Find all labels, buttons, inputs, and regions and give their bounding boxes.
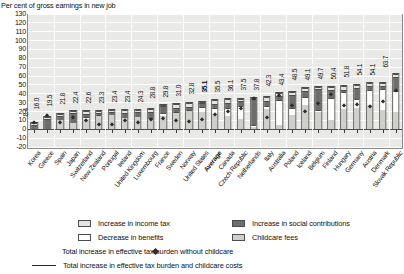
stacked-bar[interactable] <box>302 87 310 130</box>
bar-group[interactable]: 23.3 <box>105 15 118 148</box>
bar-group[interactable]: 24.3 <box>144 15 157 148</box>
y-axis-tick: 40 <box>2 90 26 97</box>
bar-group[interactable]: 63.7 <box>389 15 402 148</box>
stacked-bar[interactable] <box>392 73 400 129</box>
bar-group[interactable]: 43.4 <box>286 15 299 148</box>
y-axis-tick: 120 <box>2 19 26 26</box>
legend-label: Total increase in effective tax burden w… <box>62 247 233 256</box>
x-axis-tick <box>163 130 164 133</box>
bar-segment-social <box>354 88 360 99</box>
bar-group[interactable]: 28.8 <box>157 15 170 148</box>
x-axis-category-labels: KoreaGreeceSpainJapanSwitzerlandNew Zeal… <box>27 150 403 212</box>
x-axis-tick <box>86 130 87 133</box>
legend-swatch-social-contributions-icon <box>232 220 245 227</box>
stacked-bar[interactable] <box>289 91 297 129</box>
bar-group[interactable]: 51.8 <box>350 15 363 148</box>
stacked-bar[interactable] <box>69 110 77 129</box>
bar-segment-benefits <box>303 97 309 105</box>
legend-label: Increase in social contributions <box>252 219 350 228</box>
bar-segment-childcare <box>354 108 360 128</box>
y-axis-tick: 90 <box>2 45 26 52</box>
y-axis-tick: 110 <box>2 28 26 35</box>
legend-swatch-childcare-icon <box>232 234 245 241</box>
bar-value-label: 37.8 <box>254 78 261 90</box>
x-axis-tick <box>112 130 113 133</box>
y-axis-tick: 70 <box>2 63 26 70</box>
bar-segment-childcare <box>251 127 257 129</box>
bar-group[interactable]: 48.5 <box>299 15 312 148</box>
bar-segment-childcare <box>393 112 399 129</box>
x-axis-tick <box>138 130 139 133</box>
bar-value-label: 22.4 <box>74 92 81 104</box>
bar-segment-social <box>251 99 257 125</box>
legend-label: Increase in income tax <box>98 219 170 228</box>
y-axis-tick: -10 <box>2 134 26 141</box>
bar-value-label: 36.1 <box>228 80 235 92</box>
bar-group[interactable]: 29.8 <box>170 15 183 148</box>
x-axis-tick <box>370 130 371 133</box>
bar-value-label: 50.4 <box>331 67 338 79</box>
legend-item-total-with-childcare: Total increase in effective tax burden a… <box>32 261 242 270</box>
bar-group[interactable]: 23.4 <box>131 15 144 148</box>
x-axis-tick <box>254 130 255 133</box>
bar-value-label: 28.8 <box>151 86 158 98</box>
y-axis-tick: 100 <box>2 37 26 44</box>
stacked-bar[interactable] <box>237 98 245 130</box>
bar-group[interactable]: 8.4 <box>28 15 41 148</box>
bar-value-label: 29.8 <box>164 86 171 98</box>
bar-value-label: 35.5 <box>215 80 222 92</box>
bar-group[interactable]: 23.4 <box>118 15 131 148</box>
x-axis-tick <box>396 130 397 133</box>
bar-segment-benefits <box>328 98 334 121</box>
bar-segment-social <box>161 106 167 113</box>
bar-segment-childcare <box>225 116 231 128</box>
bar-value-label: 21.8 <box>61 93 68 105</box>
x-axis-tick <box>189 130 190 133</box>
bar-value-label: 49.7 <box>319 68 326 80</box>
stacked-bar[interactable] <box>314 86 322 130</box>
bar-value-label: 23.3 <box>99 91 106 103</box>
stacked-bar[interactable] <box>173 103 181 129</box>
bar-group[interactable]: 21.8 <box>67 15 80 148</box>
bar-group[interactable]: 54.1 <box>363 15 376 148</box>
bar-group[interactable]: 22.4 <box>80 15 93 148</box>
stacked-bar[interactable] <box>263 96 271 130</box>
stacked-bar[interactable] <box>379 82 387 130</box>
bar-value-label: 32.8 <box>190 83 197 95</box>
bar-group[interactable]: 22.6 <box>92 15 105 148</box>
bar-segment-childcare <box>238 119 244 129</box>
bar-segment-social <box>315 89 321 110</box>
bar-value-label: 48.5 <box>293 69 300 81</box>
x-axis-tick <box>47 130 48 133</box>
x-axis-tick <box>215 130 216 133</box>
stacked-bar[interactable] <box>185 102 193 129</box>
bar-group[interactable]: 16.0 <box>41 15 54 148</box>
stacked-bar[interactable] <box>250 97 258 130</box>
stacked-bar[interactable] <box>276 92 284 130</box>
bar-value-label: 54.1 <box>370 64 377 76</box>
x-axis-tick <box>34 130 35 133</box>
y-axis-tick: 0 <box>2 125 26 132</box>
legend-item-decrease-benefits: Decrease in benefits <box>78 233 163 242</box>
bar-group[interactable]: 54.1 <box>376 15 389 148</box>
bar-value-label: 42.3 <box>267 74 274 86</box>
bar-group[interactable]: 49.1 <box>312 15 325 148</box>
bar-segment-benefits <box>290 108 296 116</box>
x-axis-tick <box>151 130 152 133</box>
legend-line-marker-icon <box>32 265 56 266</box>
bar-group[interactable]: 50.4 <box>338 15 351 148</box>
bar-segment-childcare <box>290 115 296 128</box>
bar-group[interactable]: 31.0 <box>183 15 196 148</box>
bar-group[interactable]: 19.5 <box>54 15 67 148</box>
bar-segment-childcare <box>70 123 76 129</box>
plot-canvas: 8.416.019.521.822.422.623.323.423.424.32… <box>27 14 403 149</box>
x-axis-tick <box>318 130 319 133</box>
x-axis-tick <box>176 130 177 133</box>
x-axis-tick <box>267 130 268 133</box>
bar-group[interactable]: 49.7 <box>325 15 338 148</box>
x-axis-tick <box>292 130 293 133</box>
bar-segment-childcare <box>341 109 347 128</box>
legend-swatch-benefits-icon <box>78 234 91 241</box>
stacked-bar[interactable] <box>198 101 206 130</box>
x-axis-tick <box>202 130 203 133</box>
